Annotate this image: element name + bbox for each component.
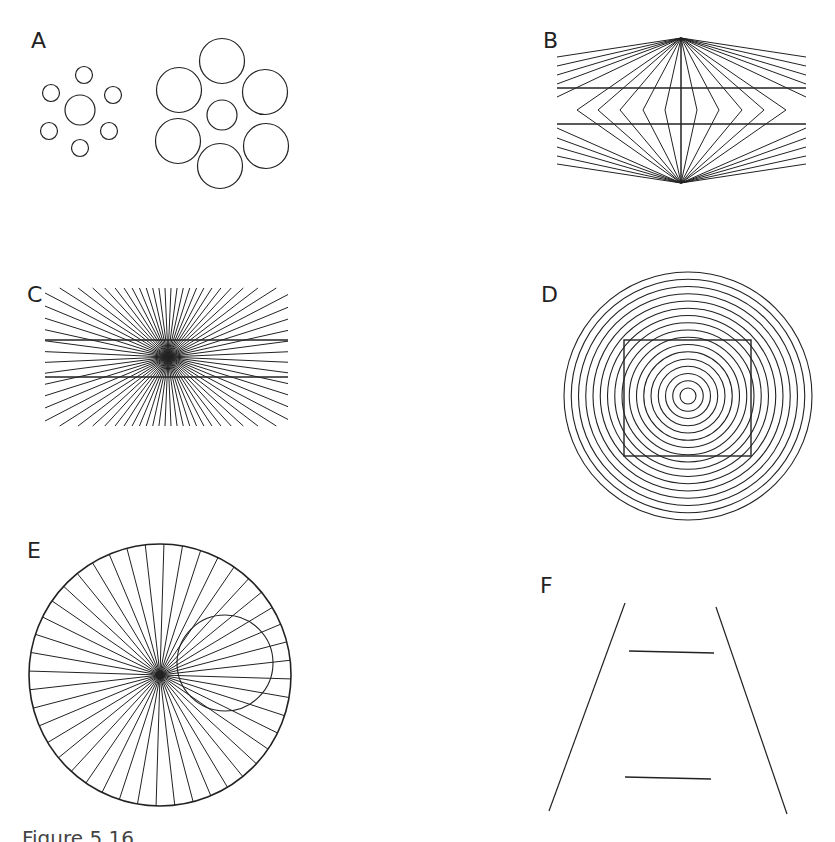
panel-e-circle-on-spokes	[29, 544, 291, 806]
panel-b-converging-lines	[557, 38, 806, 183]
panel-d-square-on-circles	[564, 272, 812, 520]
panel-f-ponzo	[549, 603, 787, 814]
illusion-drawings	[0, 0, 835, 842]
figure-caption: Figure 5.16	[22, 828, 134, 842]
panel-c-hering	[45, 288, 288, 426]
panel-a-ebbinghaus	[41, 39, 289, 189]
